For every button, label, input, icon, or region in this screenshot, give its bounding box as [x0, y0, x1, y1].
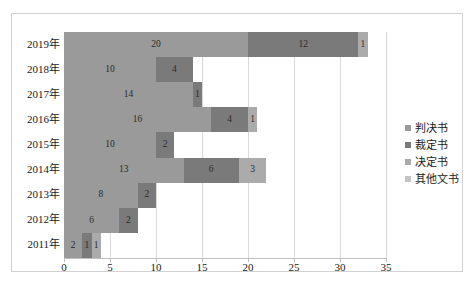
- bar-segment[interactable]: 8: [64, 183, 138, 208]
- bar-segment[interactable]: 10: [64, 57, 156, 82]
- y-axis-label: 2016年: [14, 114, 60, 125]
- bar-value-label: 8: [98, 190, 103, 200]
- x-axis-tick: [156, 258, 157, 262]
- bar-row[interactable]: 104: [64, 57, 193, 82]
- x-axis-label: 5: [107, 262, 113, 273]
- gridline-35: [386, 32, 387, 258]
- y-axis-label: 2017年: [14, 89, 60, 100]
- legend-swatch-icon: [405, 142, 411, 148]
- plot-area: 20121104141164110213638262211: [64, 32, 386, 258]
- legend-swatch-icon: [405, 176, 411, 182]
- bar-row[interactable]: 102: [64, 132, 174, 157]
- bar-segment[interactable]: 16: [64, 107, 211, 132]
- y-axis-label: 2013年: [14, 189, 60, 200]
- legend-item[interactable]: 其他文书: [405, 171, 469, 187]
- bar-segment[interactable]: 1: [92, 233, 101, 258]
- bar-segment[interactable]: 2: [138, 183, 156, 208]
- bar-segment[interactable]: 6: [184, 158, 239, 183]
- bar-value-label: 2: [71, 241, 76, 251]
- legend-label: 决定书: [415, 157, 448, 168]
- bar-segment[interactable]: 12: [248, 32, 358, 57]
- bar-value-label: 6: [89, 216, 94, 226]
- x-axis-line: [64, 258, 386, 259]
- y-axis-label: 2014年: [14, 164, 60, 175]
- gridline-30: [340, 32, 341, 258]
- x-axis: 05101520253035: [64, 262, 386, 280]
- bar-row[interactable]: 20121: [64, 32, 368, 57]
- x-axis-label: 15: [197, 262, 208, 273]
- bar-segment[interactable]: 2: [119, 208, 137, 233]
- stacked-bar-chart: 20121104141164110213638262211 2019年2018年…: [0, 0, 475, 288]
- bar-value-label: 10: [105, 65, 115, 75]
- x-axis-tick: [294, 258, 295, 262]
- bar-segment[interactable]: 6: [64, 208, 119, 233]
- bar-value-label: 16: [133, 115, 143, 125]
- x-axis-label: 30: [335, 262, 346, 273]
- bar-row[interactable]: 211: [64, 233, 101, 258]
- x-axis-label: 35: [381, 262, 392, 273]
- bar-value-label: 1: [94, 241, 99, 251]
- bar-value-label: 4: [172, 65, 177, 75]
- bar-segment[interactable]: 4: [156, 57, 193, 82]
- bar-segment[interactable]: 3: [239, 158, 267, 183]
- legend-swatch-icon: [405, 125, 411, 131]
- legend-label: 其他文书: [415, 174, 459, 185]
- bar-segment[interactable]: 14: [64, 82, 193, 107]
- gridline-20: [248, 32, 249, 258]
- bar-value-label: 10: [105, 140, 115, 150]
- chart-frame: 20121104141164110213638262211 2019年2018年…: [11, 13, 463, 272]
- bar-segment[interactable]: 1: [193, 82, 202, 107]
- bar-segment[interactable]: 2: [156, 132, 174, 157]
- bar-value-label: 1: [85, 241, 90, 251]
- bar-segment[interactable]: 20: [64, 32, 248, 57]
- bar-value-label: 13: [119, 165, 129, 175]
- bar-row[interactable]: 1641: [64, 107, 257, 132]
- bar-value-label: 1: [250, 115, 255, 125]
- bar-value-label: 2: [144, 190, 149, 200]
- chart-legend: 判决书裁定书决定书其他文书: [405, 120, 469, 188]
- y-axis: 2019年2018年2017年2016年2015年2014年2013年2012年…: [12, 32, 60, 258]
- bar-segment[interactable]: 1: [248, 107, 257, 132]
- bar-segment[interactable]: 10: [64, 132, 156, 157]
- bar-segment[interactable]: 4: [211, 107, 248, 132]
- bar-row[interactable]: 82: [64, 183, 156, 208]
- x-axis-tick: [202, 258, 203, 262]
- bar-value-label: 1: [361, 40, 366, 50]
- bar-value-label: 4: [227, 115, 232, 125]
- bar-segment[interactable]: 13: [64, 158, 184, 183]
- x-axis-label: 0: [61, 262, 67, 273]
- bar-row[interactable]: 141: [64, 82, 202, 107]
- y-axis-label: 2011年: [14, 239, 60, 250]
- bar-value-label: 14: [124, 90, 134, 100]
- bar-row[interactable]: 1363: [64, 158, 266, 183]
- bar-value-label: 20: [151, 40, 161, 50]
- x-axis-label: 20: [243, 262, 254, 273]
- x-axis-label: 10: [151, 262, 162, 273]
- bar-value-label: 6: [209, 165, 214, 175]
- bar-value-label: 2: [163, 140, 168, 150]
- gridline-15: [202, 32, 203, 258]
- x-axis-tick: [110, 258, 111, 262]
- legend-label: 判决书: [415, 123, 448, 134]
- y-axis-label: 2018年: [14, 64, 60, 75]
- bar-segment[interactable]: 1: [358, 32, 367, 57]
- x-axis-tick: [340, 258, 341, 262]
- x-axis-tick: [248, 258, 249, 262]
- bar-value-label: 1: [195, 90, 200, 100]
- bar-value-label: 3: [250, 165, 255, 175]
- bar-segment[interactable]: 1: [82, 233, 91, 258]
- legend-item[interactable]: 判决书: [405, 120, 469, 136]
- x-axis-tick: [64, 258, 65, 262]
- y-axis-label: 2015年: [14, 139, 60, 150]
- bar-segment[interactable]: 2: [64, 233, 82, 258]
- y-axis-label: 2019年: [14, 39, 60, 50]
- x-axis-label: 25: [289, 262, 300, 273]
- x-axis-tick: [386, 258, 387, 262]
- legend-item[interactable]: 决定书: [405, 154, 469, 170]
- y-axis-label: 2012年: [14, 214, 60, 225]
- legend-item[interactable]: 裁定书: [405, 137, 469, 153]
- bar-row[interactable]: 62: [64, 208, 138, 233]
- bar-value-label: 2: [126, 216, 131, 226]
- gridline-25: [294, 32, 295, 258]
- legend-swatch-icon: [405, 159, 411, 165]
